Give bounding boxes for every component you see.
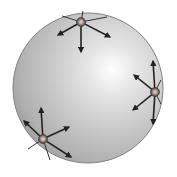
- node-right: [151, 88, 160, 97]
- node-bottom-left: [39, 135, 48, 144]
- node-top: [77, 18, 86, 27]
- sphere-diagram: [0, 0, 177, 177]
- sphere: [13, 13, 163, 163]
- arrow-bottom-left-4: [28, 141, 40, 149]
- sphere-figure: [0, 0, 177, 177]
